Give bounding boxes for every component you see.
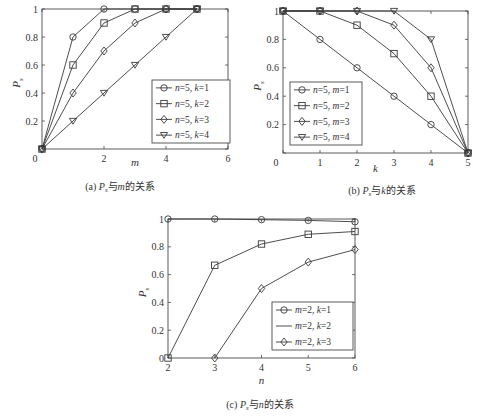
legend: m=2, k=1m=2, k=2m=2, k=3 [272, 302, 353, 350]
x-tick-label: 0 [33, 153, 38, 164]
legend-label: m=2, k=2 [295, 321, 331, 331]
x-tick-label: 4 [259, 362, 264, 373]
x-tick-label: 2 [166, 362, 171, 373]
y-tick-label: 0.2 [267, 119, 280, 130]
y-tick-label: 0.8 [267, 34, 280, 45]
legend-label: n=5, m=2 [313, 101, 350, 111]
x-tick-label: 6 [353, 362, 358, 373]
y-tick-label: 0.8 [26, 32, 39, 43]
figure-canvas: 02460.20.40.60.81Psmn=5, k=1n=5, k=2n=5,… [0, 0, 479, 420]
legend: n=5, m=1n=5, m=2n=5, m=3n=5, m=4 [290, 82, 362, 145]
chart-b: 0123450.20.40.60.81Pskn=5, m=1n=5, m=2n=… [251, 6, 472, 199]
legend-label: m=2, k=3 [295, 337, 331, 347]
y-tick-label: 0.4 [152, 297, 165, 308]
y-tick-label: 0.6 [26, 60, 39, 71]
legend-label: n=5, m=4 [313, 132, 350, 142]
chart-a: 02460.20.40.60.81Psmn=5, k=1n=5, k=2n=5,… [10, 4, 231, 195]
x-tick-label: 4 [429, 157, 434, 168]
y-tick-label: 0.4 [26, 88, 39, 99]
x-tick-label: 3 [392, 157, 397, 168]
x-tick-label: 2 [355, 157, 360, 168]
y-axis-label: Ps [251, 81, 266, 92]
x-tick-label: 2 [102, 153, 107, 164]
y-tick-label: 0.6 [267, 62, 280, 73]
x-tick-label: 5 [306, 362, 311, 373]
legend-label: n=5, k=3 [175, 115, 209, 125]
figure-caption: (b) Ps与k的关系 [348, 184, 415, 198]
y-tick-label: 0.6 [152, 269, 165, 280]
y-tick-label: 1 [33, 4, 38, 15]
legend-label: n=5, k=4 [175, 130, 209, 140]
y-tick-label: 0.4 [267, 91, 280, 102]
x-tick-label: 6 [226, 153, 231, 164]
legend-label: n=5, m=1 [313, 85, 350, 95]
y-tick-label: 0.2 [152, 325, 165, 336]
x-axis-label: m [131, 156, 139, 168]
y-tick-label: 0.2 [26, 116, 39, 127]
x-axis-label: k [373, 162, 379, 174]
legend-label: m=2, k=1 [295, 305, 331, 315]
figure-caption: (c) Ps与n的关系 [226, 398, 293, 412]
y-tick-label: 1 [274, 6, 279, 17]
legend-label: n=5, m=3 [313, 117, 350, 127]
y-axis-label: Ps [136, 288, 151, 299]
x-tick-label: 4 [164, 153, 169, 164]
y-tick-label: 0.8 [152, 241, 165, 252]
x-tick-label: 0 [274, 157, 279, 168]
legend-label: n=5, k=2 [175, 99, 209, 109]
figure-caption: (a) Ps与m的关系 [85, 180, 155, 194]
x-tick-label: 3 [212, 362, 217, 373]
x-axis-label: n [259, 374, 265, 386]
legend-label: n=5, k=1 [175, 83, 209, 93]
chart-c: 2345600.20.40.60.81Psnm=2, k=1m=2, k=2m=… [136, 214, 358, 413]
y-axis-label: Ps [10, 78, 25, 89]
x-tick-label: 1 [318, 157, 323, 168]
y-tick-label: 0 [159, 353, 164, 364]
legend: n=5, k=1n=5, k=2n=5, k=3n=5, k=4 [152, 80, 230, 143]
y-tick-label: 1 [159, 214, 164, 225]
x-tick-label: 5 [466, 157, 471, 168]
